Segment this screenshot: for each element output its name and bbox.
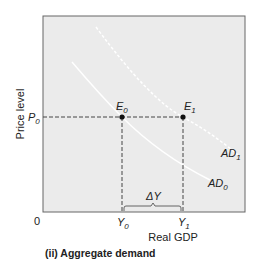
aggregate-demand-diagram: Price level P0 E0 E1 AD1 AD0 ΔY 0 Y0 Y1 … [0, 0, 259, 263]
delta-y-label: ΔY [145, 190, 161, 202]
x-axis-label: Real GDP [148, 231, 198, 243]
y1-tick-label: Y1 [178, 216, 190, 231]
y-axis-label: Price level [14, 89, 26, 140]
p0-label: P0 [28, 111, 40, 126]
e0-point [119, 114, 124, 119]
e1-point [180, 114, 185, 119]
figure-caption: (ii) Aggregate demand [45, 247, 155, 259]
y0-tick-label: Y0 [117, 216, 129, 231]
origin-label: 0 [34, 215, 40, 227]
